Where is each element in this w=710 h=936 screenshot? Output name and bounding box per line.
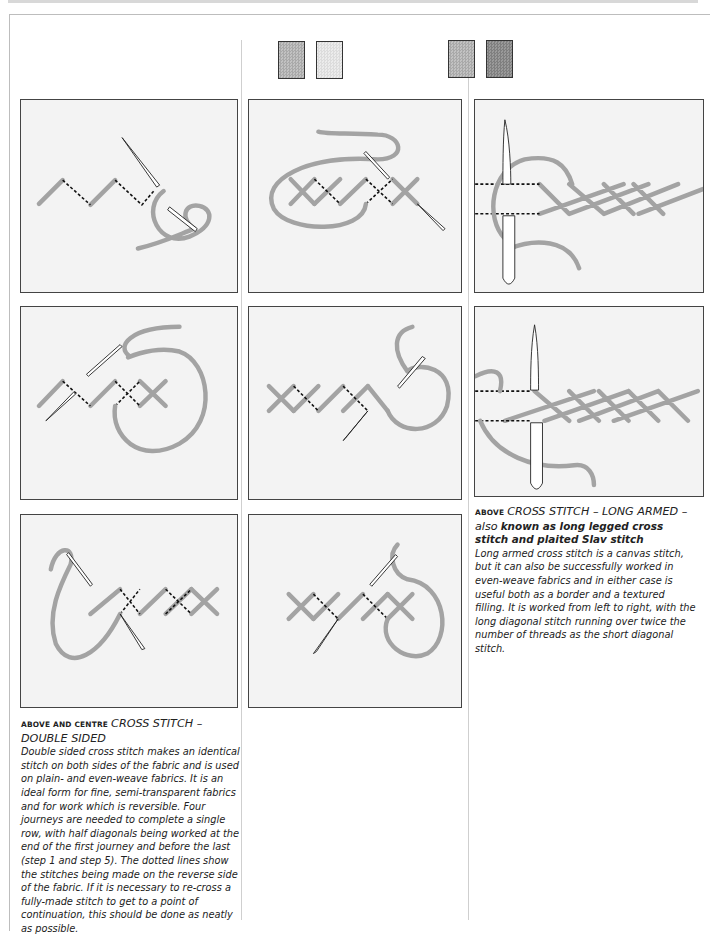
caption-long-armed: ABOVE CROSS STITCH – LONG ARMED – also k…	[475, 505, 697, 656]
needle-icon	[364, 151, 390, 179]
needle-icon	[531, 325, 539, 390]
stitch-diagram	[249, 515, 461, 707]
column-divider-2	[468, 40, 469, 920]
illustration-double-sided-step-5	[20, 514, 238, 708]
needle-icon	[122, 138, 160, 187]
needle-icon	[370, 555, 398, 587]
illustration-double-sided-step-6	[248, 514, 462, 708]
caption-lead: ABOVE AND CENTRE	[21, 720, 108, 729]
color-swatch-dark-grey	[486, 40, 513, 78]
illustration-long-armed-step-1	[474, 99, 704, 293]
caption-body: Double sided cross stitch makes an ident…	[21, 746, 240, 934]
stitch-diagram	[475, 100, 703, 292]
caption-lead: ABOVE	[475, 508, 504, 517]
stitch-diagram	[249, 100, 461, 292]
caption-subtitle: known as long legged cross stitch and pl…	[475, 520, 663, 546]
caption-double-sided: ABOVE AND CENTRE CROSS STITCH – DOUBLE S…	[21, 717, 243, 936]
needle-icon	[313, 619, 338, 654]
illustration-double-sided-step-4	[248, 306, 462, 500]
stitch-diagram	[249, 307, 461, 499]
illustration-double-sided-step-3	[20, 306, 238, 500]
needle-icon	[168, 207, 198, 232]
stitch-diagram	[21, 307, 237, 499]
color-swatch-mid-grey-2	[448, 40, 475, 78]
needle-icon	[503, 216, 515, 284]
stitch-diagram	[21, 100, 237, 292]
illustration-double-sided-step-1	[20, 99, 238, 293]
color-swatch-light-grey	[316, 41, 343, 79]
needle-icon	[531, 423, 543, 489]
top-rule	[8, 0, 698, 3]
illustration-long-armed-step-2	[474, 306, 704, 497]
illustration-double-sided-step-2	[248, 99, 462, 293]
needle-icon	[86, 345, 122, 377]
color-swatch-mid-grey	[278, 41, 305, 79]
caption-body: Long armed cross stitch is a canvas stit…	[475, 548, 695, 654]
stitch-diagram	[21, 515, 237, 707]
needle-icon	[503, 120, 511, 184]
needle-icon	[343, 411, 368, 441]
needle-icon	[120, 614, 145, 650]
needle-icon	[417, 204, 445, 231]
stitch-diagram	[475, 307, 703, 496]
